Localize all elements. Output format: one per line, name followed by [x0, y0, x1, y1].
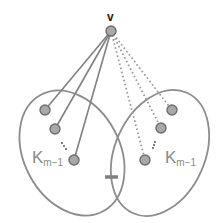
left-clique-label: Km−1 — [32, 148, 64, 168]
right-ellipsis-dot — [152, 147, 154, 149]
right-clique-ellipse — [92, 74, 223, 223]
graph-diagram: v Km−1 Km−1 — [0, 0, 223, 223]
left-node — [69, 155, 79, 165]
vertex-v — [106, 26, 116, 36]
right-node — [140, 155, 150, 165]
vertex-v-label: v — [107, 10, 114, 24]
right-ellipsis-dot — [154, 141, 156, 143]
left-ellipsis-dot — [63, 145, 65, 147]
right-clique-label-main: K — [165, 148, 177, 167]
right-clique-label-sub: m−1 — [176, 157, 196, 168]
edge-v-right-1 — [111, 31, 172, 110]
left-ellipsis-dot — [61, 142, 63, 144]
left-clique-ellipse — [0, 72, 145, 223]
right-clique-label: Km−1 — [165, 148, 197, 168]
left-node — [40, 105, 50, 115]
right-ellipsis-dot — [153, 144, 155, 146]
edge-v-left-1 — [45, 31, 111, 110]
left-clique-label-main: K — [32, 148, 44, 167]
edge-v-right-2 — [111, 31, 161, 128]
right-node — [167, 105, 177, 115]
left-node — [50, 124, 60, 134]
left-clique-label-sub: m−1 — [43, 157, 63, 168]
right-node — [156, 123, 166, 133]
left-ellipsis-dot — [65, 148, 67, 150]
